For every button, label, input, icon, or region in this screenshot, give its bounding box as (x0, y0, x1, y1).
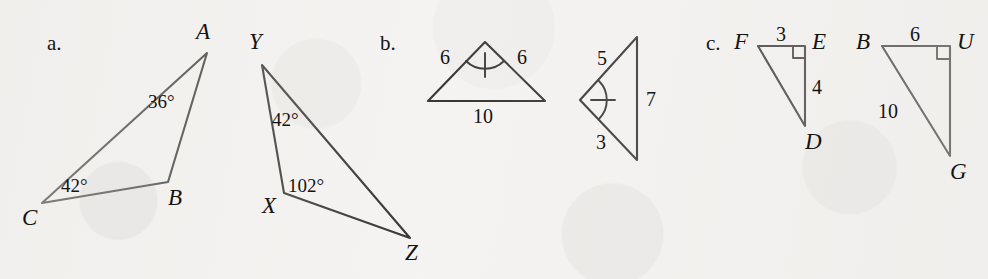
part-label-b: b. (380, 33, 396, 54)
side-label-bu-6: 6 (910, 24, 920, 44)
vertex-label-c: C (22, 206, 37, 229)
side-label-ed-4: 4 (812, 77, 822, 97)
angle-label-x-102: 102° (288, 176, 324, 195)
vertex-label-z: Z (405, 241, 418, 264)
part-label-a: a. (47, 33, 62, 54)
side-label-fe-3: 3 (776, 24, 786, 44)
vertex-label-a: A (196, 20, 210, 43)
part-label-c: c. (706, 33, 721, 54)
side-label-3: 3 (596, 132, 606, 152)
figure-linework (0, 0, 988, 279)
vertex-label-y: Y (249, 30, 262, 53)
right-angle-mark-e-icon (793, 46, 805, 58)
vertex-label-x: X (262, 194, 276, 217)
right-angle-mark-u-icon (937, 46, 950, 59)
angle-label-y-42: 42° (272, 110, 299, 129)
side-label-left-6: 6 (440, 47, 450, 67)
side-label-bg-10: 10 (878, 101, 898, 121)
triangle-537-outline (580, 37, 637, 160)
vertex-label-b: B (168, 186, 182, 209)
triangle-xyz-outline (262, 65, 410, 238)
vertex-label-u: U (957, 30, 974, 53)
vertex-label-bu: B (856, 30, 870, 53)
side-label-7: 7 (646, 89, 656, 109)
geometry-figure-page: a. b. c. A B C 36° 42° Y X Z 42° 102° 6 … (0, 0, 988, 279)
angle-label-c-42: 42° (61, 176, 88, 195)
vertex-label-d: D (805, 130, 822, 153)
side-label-5: 5 (597, 48, 607, 68)
side-label-right-6: 6 (517, 47, 527, 67)
vertex-label-g: G (950, 160, 967, 183)
angle-label-a-36: 36° (148, 92, 175, 111)
vertex-label-f: F (734, 30, 748, 53)
vertex-label-e: E (812, 30, 826, 53)
side-label-base-10: 10 (473, 106, 493, 126)
